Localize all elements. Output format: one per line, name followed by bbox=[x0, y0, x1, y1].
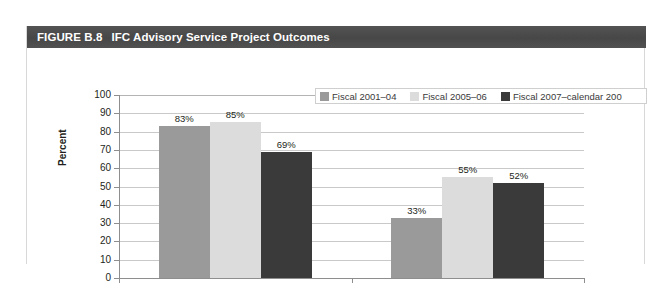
bar bbox=[261, 152, 312, 278]
y-tick-label: 60 bbox=[100, 163, 111, 173]
legend-item: Fiscal 2005–06 bbox=[410, 91, 486, 102]
y-tick-mark bbox=[114, 113, 119, 114]
legend-item: Fiscal 2001–04 bbox=[320, 91, 396, 102]
chart-legend: Fiscal 2001–04Fiscal 2005–06Fiscal 2007–… bbox=[315, 88, 647, 104]
legend-label: Fiscal 2007–calendar 200 bbox=[513, 91, 622, 102]
y-tick-mark bbox=[114, 95, 119, 96]
y-tick-mark bbox=[114, 205, 119, 206]
bar-value-label: 85% bbox=[210, 109, 261, 120]
bar bbox=[159, 126, 210, 278]
legend-label: Fiscal 2001–04 bbox=[332, 91, 396, 102]
bar-value-label: 55% bbox=[442, 164, 493, 175]
y-tick-label: 100 bbox=[94, 90, 111, 100]
legend-swatch-icon bbox=[320, 92, 329, 101]
figure-panel: FIGURE B.8 IFC Advisory Service Project … bbox=[26, 26, 645, 264]
y-tick-mark bbox=[114, 168, 119, 169]
bar bbox=[391, 218, 442, 278]
y-tick-label: 80 bbox=[100, 127, 111, 137]
y-tick-label: 70 bbox=[100, 145, 111, 155]
bar bbox=[442, 177, 493, 278]
bar-value-label: 83% bbox=[159, 113, 210, 124]
legend-swatch-icon bbox=[410, 92, 419, 101]
y-tick-label: 90 bbox=[100, 108, 111, 118]
y-tick-mark bbox=[114, 260, 119, 261]
bar bbox=[493, 183, 544, 278]
y-tick-label: 30 bbox=[100, 218, 111, 228]
figure-number: FIGURE B.8 bbox=[37, 31, 103, 43]
plot-bars: 83%85%69%33%55%52% bbox=[119, 95, 584, 278]
figure-title-bar: FIGURE B.8 IFC Advisory Service Project … bbox=[27, 26, 646, 48]
y-tick-mark bbox=[114, 187, 119, 188]
x-tick-mark bbox=[352, 278, 353, 283]
x-tick-mark bbox=[119, 278, 120, 283]
y-tick-mark bbox=[114, 278, 119, 279]
legend-label: Fiscal 2005–06 bbox=[422, 91, 486, 102]
y-tick-label: 10 bbox=[100, 255, 111, 265]
y-tick-label: 20 bbox=[100, 236, 111, 246]
y-tick-mark bbox=[114, 150, 119, 151]
figure-title: IFC Advisory Service Project Outcomes bbox=[112, 31, 330, 43]
y-tick-label: 0 bbox=[105, 273, 111, 283]
y-axis-title: Percent bbox=[57, 129, 68, 166]
y-tick-label: 40 bbox=[100, 200, 111, 210]
y-axis-labels: 0102030405060708090100 bbox=[27, 48, 119, 264]
y-tick-label: 50 bbox=[100, 182, 111, 192]
legend-swatch-icon bbox=[501, 92, 510, 101]
y-tick-mark bbox=[114, 241, 119, 242]
bar-value-label: 52% bbox=[493, 170, 544, 181]
y-tick-mark bbox=[114, 223, 119, 224]
x-tick-mark bbox=[584, 278, 585, 283]
bar bbox=[210, 122, 261, 278]
bar-value-label: 69% bbox=[261, 139, 312, 150]
chart-area: 0102030405060708090100 Percent 83%85%69%… bbox=[27, 48, 646, 264]
legend-item: Fiscal 2007–calendar 200 bbox=[501, 91, 622, 102]
y-tick-mark bbox=[114, 132, 119, 133]
bar-value-label: 33% bbox=[391, 205, 442, 216]
